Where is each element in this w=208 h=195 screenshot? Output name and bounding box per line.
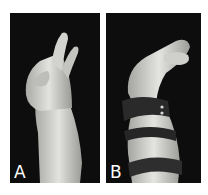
panel-label-a: A: [14, 164, 26, 181]
figure: A B: [0, 0, 208, 195]
panel-b-photo: B: [106, 13, 201, 183]
hand-photo-a: [10, 13, 100, 183]
panel-label-b: B: [110, 164, 122, 181]
hand-photo-b: [106, 13, 201, 183]
panel-a-photo: A: [10, 13, 100, 183]
